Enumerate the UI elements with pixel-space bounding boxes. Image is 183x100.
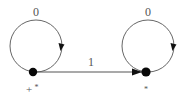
state-node-right-label-superscript: * — [144, 85, 148, 94]
state-node-left-label-base: + — [26, 83, 32, 95]
state-node-left-label-group: + * — [26, 83, 39, 95]
automaton-diagram: 0 0 1 + * * — [0, 0, 183, 100]
state-node-left[interactable] — [29, 68, 37, 76]
transition-edge-label: 1 — [88, 55, 94, 69]
transition-edge-left-to-right — [36, 69, 142, 76]
self-loop-right — [122, 20, 177, 72]
diagram-canvas: 0 0 1 + * * — [0, 0, 183, 100]
right-loop-circle — [122, 20, 174, 72]
right-loop-label: 0 — [145, 5, 151, 19]
self-loop-left — [10, 20, 65, 72]
left-loop-circle — [10, 20, 62, 72]
left-loop-label: 0 — [33, 5, 39, 19]
state-node-left-label-superscript: * — [35, 83, 39, 92]
state-node-right[interactable] — [141, 67, 150, 76]
state-node-right-label-group: * — [144, 85, 148, 94]
